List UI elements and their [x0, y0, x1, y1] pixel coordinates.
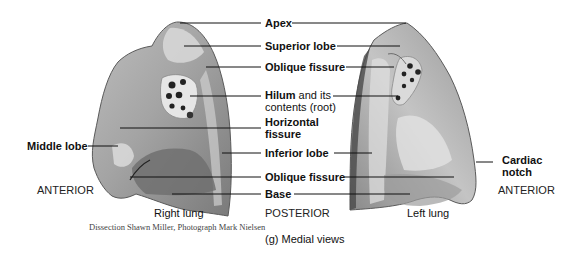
label-anterior-right: ANTERIOR: [498, 184, 555, 196]
label-oblique-fissure-bottom: Oblique fissure: [265, 171, 345, 183]
label-right-lung: Right lung: [154, 207, 204, 219]
label-middle-lobe: Middle lobe: [27, 140, 88, 152]
label-left-lung: Left lung: [407, 207, 449, 219]
label-cardiac-notch-line1: Cardiac: [502, 154, 542, 166]
label-hilum-rest: and its: [296, 89, 331, 101]
right-lung: [92, 22, 231, 216]
left-lung: [350, 23, 476, 210]
label-inferior-lobe: Inferior lobe: [265, 147, 329, 159]
label-anterior-left: ANTERIOR: [37, 184, 94, 196]
label-base: Base: [265, 188, 291, 200]
figure-caption: (g) Medial views: [265, 233, 344, 245]
label-hilum-line2: contents (root): [265, 101, 336, 113]
label-superior-lobe: Superior lobe: [265, 40, 336, 52]
label-horizontal-fissure-line2: fissure: [265, 128, 301, 140]
photo-credit: Dissection Shawn Miller, Photograph Mark…: [89, 222, 265, 232]
label-apex: Apex: [265, 17, 292, 29]
label-oblique-fissure-top: Oblique fissure: [265, 61, 345, 73]
label-cardiac-notch-line2: notch: [502, 166, 532, 178]
label-posterior: POSTERIOR: [265, 207, 330, 219]
lung-medial-views-figure: Apex Superior lobe Oblique fissure Hilum…: [0, 0, 569, 254]
label-hilum: Hilum and its: [265, 89, 331, 101]
label-horizontal-fissure-line1: Horizontal: [265, 116, 319, 128]
label-hilum-bold: Hilum: [265, 89, 296, 101]
